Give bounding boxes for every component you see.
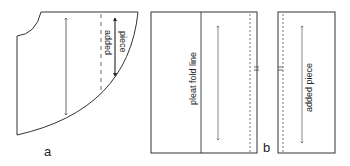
panel-a-label: a xyxy=(44,144,52,159)
panel-b-right: added piece xyxy=(278,12,335,153)
pleat-fold-label: pleat fold line xyxy=(188,52,198,105)
panel-b-label: b xyxy=(263,140,270,155)
pleat-piece-outline xyxy=(151,12,257,153)
piece-label: piece xyxy=(118,31,128,53)
added-label: added xyxy=(103,30,113,55)
panel-b-left: pleat fold line xyxy=(151,12,259,153)
panel-a: added piece a xyxy=(17,12,138,159)
pattern-diagram: added piece a pleat fold line b added pi… xyxy=(0,0,350,166)
added-piece-label: added piece xyxy=(304,63,314,112)
